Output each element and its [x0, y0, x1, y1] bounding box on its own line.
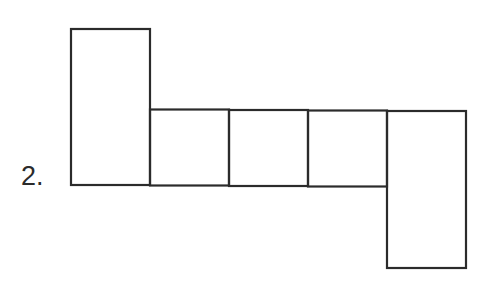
- cuboid-net-diagram: [0, 0, 489, 285]
- face-square-3: [308, 111, 387, 187]
- face-square-1: [150, 110, 229, 186]
- face-square-2: [229, 110, 308, 186]
- face-left-tall: [71, 29, 150, 185]
- face-right-tall: [387, 111, 466, 268]
